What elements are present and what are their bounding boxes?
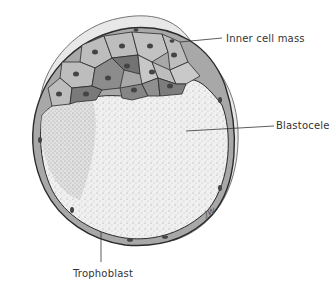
label-trophoblast: Trophoblast bbox=[73, 268, 133, 279]
blastocyst-diagram: Inner cell mass Blastocele Trophoblast J… bbox=[0, 0, 336, 293]
label-inner-cell-mass: Inner cell mass bbox=[226, 33, 305, 44]
label-blastocele: Blastocele bbox=[276, 120, 330, 131]
